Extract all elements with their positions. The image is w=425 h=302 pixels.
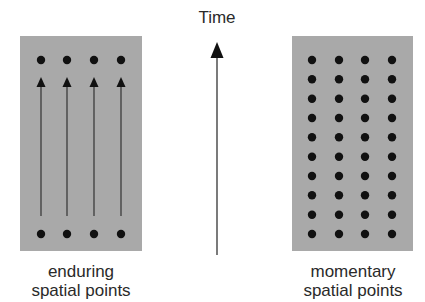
diagram-graphics: [0, 0, 425, 302]
enduring-caption-line1: enduring: [0, 262, 162, 281]
arrow-up-icon: [63, 77, 72, 216]
enduring-caption-line2: spatial points: [0, 281, 162, 300]
arrow-up-icon: [90, 77, 99, 216]
time-arrow-icon: [211, 42, 224, 255]
enduring-arrows: [37, 77, 126, 216]
arrow-up-icon: [37, 77, 46, 216]
enduring-top-dots: [37, 56, 125, 64]
momentary-caption-line1: momentary: [272, 262, 425, 281]
enduring-caption: enduring spatial points: [0, 262, 162, 300]
momentary-caption: momentary spatial points: [272, 262, 425, 300]
time-axis-label: Time: [186, 8, 248, 27]
enduring-bottom-dots: [37, 230, 125, 238]
arrow-up-icon: [117, 77, 126, 216]
momentary-caption-line2: spatial points: [272, 281, 425, 300]
momentary-dot-grid: [308, 56, 396, 238]
